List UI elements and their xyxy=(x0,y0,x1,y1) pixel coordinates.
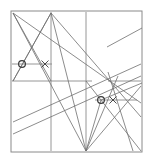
geometry-canvas xyxy=(0,0,152,163)
figure-root xyxy=(0,0,152,163)
